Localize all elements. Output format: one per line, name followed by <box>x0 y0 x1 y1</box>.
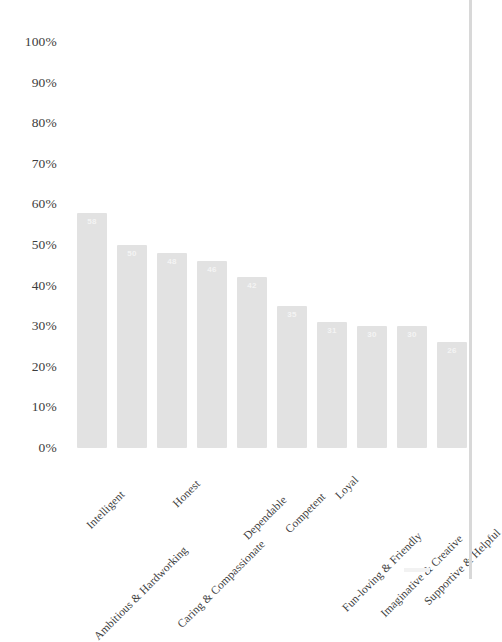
bar-value-label: 35 <box>277 311 307 319</box>
bar-value-label: 42 <box>237 282 267 290</box>
y-tick-label: 70% <box>2 157 57 171</box>
x-axis-category-label: Dependable <box>241 494 289 542</box>
y-tick-label: 0% <box>2 441 57 455</box>
bar-slot: 30 <box>352 42 392 448</box>
y-tick-label: 60% <box>2 197 57 211</box>
x-axis-category-label: Ambitious & Hardworking <box>91 544 189 642</box>
bar-slot: 31 <box>312 42 352 448</box>
y-axis: 0%10%20%30%40%50%60%70%80%90%100% <box>0 0 62 579</box>
x-axis-category-label: Honest <box>170 477 202 509</box>
y-tick-label: 90% <box>2 76 57 90</box>
y-tick-label: 20% <box>2 360 57 374</box>
bar[interactable]: 58 <box>77 213 107 448</box>
bar-slot: 42 <box>232 42 272 448</box>
bar-value-label: 50 <box>117 250 147 258</box>
y-tick-label: 50% <box>2 238 57 252</box>
bar[interactable]: 26 <box>437 342 467 448</box>
bar[interactable]: 42 <box>237 277 267 448</box>
plot-area: 58504846423531303026 <box>62 42 462 448</box>
y-tick-label: 40% <box>2 279 57 293</box>
y-tick-label: 100% <box>2 35 57 49</box>
x-axis-category-label: Intelligent <box>84 488 127 531</box>
bar-slot: 30 <box>392 42 432 448</box>
bar[interactable]: 46 <box>197 261 227 448</box>
bar-slot: 35 <box>272 42 312 448</box>
bar[interactable]: 30 <box>397 326 427 448</box>
right-edge-strip <box>469 0 472 579</box>
bar-value-label: 46 <box>197 266 227 274</box>
bar-slot: 58 <box>72 42 112 448</box>
x-axis-category-label: Competent <box>283 490 328 535</box>
bar[interactable]: 30 <box>357 326 387 448</box>
bar[interactable]: 50 <box>117 245 147 448</box>
bar-value-label: 31 <box>317 327 347 335</box>
bar-value-label: 26 <box>437 347 467 355</box>
bar[interactable]: 35 <box>277 306 307 448</box>
bar[interactable]: 31 <box>317 322 347 448</box>
y-tick-label: 30% <box>2 319 57 333</box>
bottom-right-artifact <box>404 568 430 572</box>
bar-value-label: 30 <box>397 331 427 339</box>
bar-slot: 46 <box>192 42 232 448</box>
bar-slot: 26 <box>432 42 472 448</box>
x-axis-category-label: Loyal <box>333 473 361 501</box>
bar[interactable]: 48 <box>157 253 187 448</box>
bar-slot: 50 <box>112 42 152 448</box>
bar-value-label: 58 <box>77 218 107 226</box>
bar-value-label: 48 <box>157 258 187 266</box>
y-tick-label: 10% <box>2 400 57 414</box>
x-axis: IntelligentAmbitious & HardworkingHonest… <box>62 448 472 579</box>
bar-value-label: 30 <box>357 331 387 339</box>
bar-slot: 48 <box>152 42 192 448</box>
y-tick-label: 80% <box>2 116 57 130</box>
